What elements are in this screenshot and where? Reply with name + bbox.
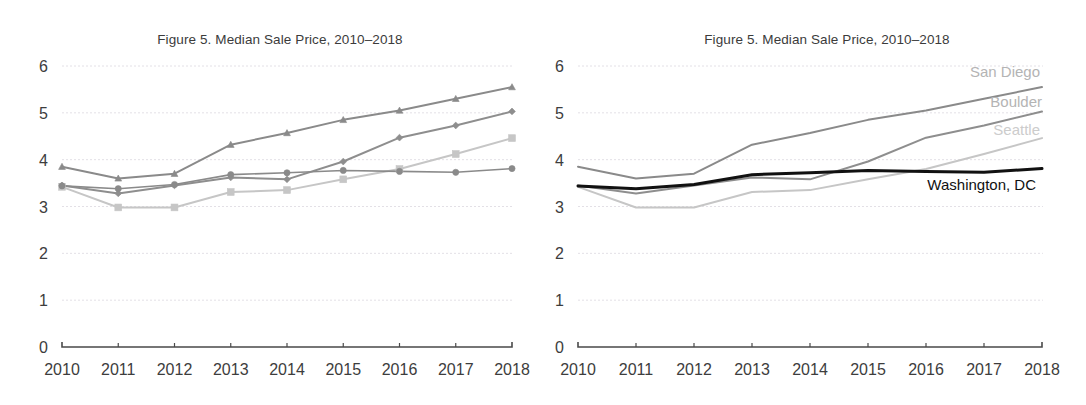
x-tick-label: 2010 xyxy=(44,361,80,378)
x-tick-labels-right: 201020112012201320142015201620172018 xyxy=(560,361,1060,378)
y-tick-label: 0 xyxy=(555,339,564,356)
series-line-san-diego xyxy=(578,87,1042,178)
data-point-marker xyxy=(284,187,291,194)
x-tick-label: 2018 xyxy=(1024,361,1060,378)
chart-panel-right: Figure 5. Median Sale Price, 2010–2018 0… xyxy=(543,0,1086,405)
data-point-marker xyxy=(396,134,403,141)
y-tick-label: 5 xyxy=(39,105,48,122)
y-tick-label: 5 xyxy=(555,105,564,122)
y-tick-label: 1 xyxy=(39,292,48,309)
x-tick-label: 2015 xyxy=(850,361,886,378)
chart-svg-left: Figure 5. Median Sale Price, 2010–2018 0… xyxy=(0,0,543,405)
data-point-marker xyxy=(340,167,346,173)
y-tick-label: 4 xyxy=(39,152,48,169)
data-point-marker xyxy=(340,158,347,165)
data-point-marker xyxy=(284,176,291,183)
y-tick-label: 6 xyxy=(555,58,564,75)
x-tick-label: 2011 xyxy=(101,361,136,378)
y-tick-label: 6 xyxy=(39,58,48,75)
chart-panel-left: Figure 5. Median Sale Price, 2010–2018 0… xyxy=(0,0,543,405)
data-point-marker xyxy=(228,172,234,178)
x-axis-right xyxy=(578,342,1042,347)
data-point-marker xyxy=(453,169,459,175)
data-point-marker xyxy=(340,176,347,183)
x-tick-label: 2014 xyxy=(792,361,828,378)
x-tick-label: 2011 xyxy=(619,361,654,378)
data-point-marker xyxy=(171,181,177,187)
figure-container: Figure 5. Median Sale Price, 2010–2018 0… xyxy=(0,0,1086,405)
x-tick-label: 2016 xyxy=(382,361,418,378)
y-tick-labels-right: 0123456 xyxy=(555,58,564,356)
x-tick-label: 2012 xyxy=(157,361,193,378)
data-point-marker xyxy=(452,122,459,129)
x-tick-label: 2017 xyxy=(438,361,474,378)
series-label-boulder: Boulder xyxy=(990,93,1042,110)
data-point-marker xyxy=(284,170,290,176)
x-tick-labels-left: 201020112012201320142015201620172018 xyxy=(44,361,530,378)
y-tick-label: 3 xyxy=(555,199,564,216)
data-point-marker xyxy=(509,135,516,142)
series-label-washington-dc: Washington, DC xyxy=(927,176,1036,193)
x-tick-label: 2012 xyxy=(676,361,712,378)
data-point-marker xyxy=(115,186,121,192)
data-point-marker xyxy=(452,151,459,158)
y-tick-label: 0 xyxy=(39,339,48,356)
x-tick-label: 2013 xyxy=(213,361,249,378)
x-tick-label: 2017 xyxy=(966,361,1002,378)
x-tick-label: 2015 xyxy=(325,361,361,378)
data-point-marker xyxy=(59,183,65,189)
data-point-marker xyxy=(396,168,402,174)
y-tick-labels-left: 0123456 xyxy=(39,58,48,356)
y-tick-label: 4 xyxy=(555,152,564,169)
y-tick-label: 3 xyxy=(39,199,48,216)
data-point-marker xyxy=(509,108,516,115)
series-label-san-diego: San Diego xyxy=(970,63,1040,80)
y-tick-label: 2 xyxy=(555,245,564,262)
data-point-marker xyxy=(509,165,515,171)
x-tick-label: 2016 xyxy=(908,361,944,378)
chart-svg-right: Figure 5. Median Sale Price, 2010–2018 0… xyxy=(543,0,1086,405)
x-tick-label: 2010 xyxy=(560,361,596,378)
x-axis-left xyxy=(62,342,512,347)
chart-title-right: Figure 5. Median Sale Price, 2010–2018 xyxy=(704,32,949,47)
x-tick-label: 2014 xyxy=(269,361,305,378)
y-tick-label: 2 xyxy=(39,245,48,262)
x-tick-label: 2013 xyxy=(734,361,770,378)
y-tick-label: 1 xyxy=(555,292,564,309)
data-point-marker xyxy=(115,204,122,211)
series-label-seattle: Seattle xyxy=(993,121,1040,138)
chart-title-left: Figure 5. Median Sale Price, 2010–2018 xyxy=(157,32,402,47)
data-point-marker xyxy=(171,204,178,211)
x-tick-label: 2018 xyxy=(494,361,530,378)
data-point-marker xyxy=(227,189,234,196)
